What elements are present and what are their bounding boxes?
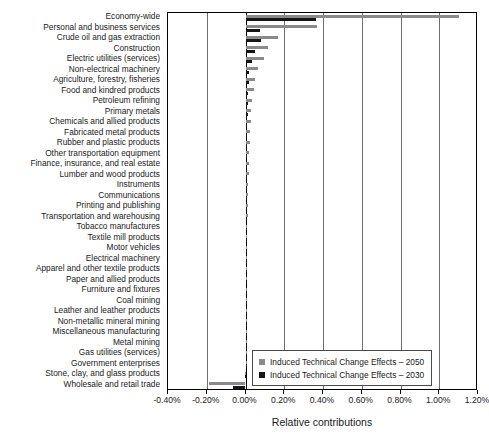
bar-2050 [246,319,247,322]
bar-2030 [246,239,247,242]
y-axis-label: Food and kindred products [61,86,160,95]
bar-2050 [246,330,247,333]
bar-2030 [246,186,247,189]
bar-2050 [246,15,459,18]
bar-group [168,55,476,66]
y-axis-label: Motor vehicles [107,243,161,252]
bar-2050 [246,36,278,39]
bar-2030 [246,312,247,315]
x-tick-mark [245,390,246,394]
bar-group [168,328,476,339]
y-axis-label: Furniture and fixtures [82,285,160,294]
y-axis-label: Metal mining [113,338,160,347]
x-tick-mark [322,390,323,394]
legend-entry-2050: Induced Technical Change Effects – 2050 [259,355,424,368]
bar-group [168,192,476,203]
bar-group [168,150,476,161]
y-axis-label: Gas utilities (services) [79,348,160,357]
y-axis-label: Leather and leather products [54,306,160,315]
bar-2030 [246,71,250,74]
bar-group [168,286,476,297]
y-axis-label: Coal mining [116,296,160,305]
y-axis-label: Lumber and wood products [59,170,160,179]
x-axis-ticks: -0.40%-0.20%0.00%0.20%0.40%0.60%0.80%1.0… [167,390,477,406]
bar-2050 [246,172,249,175]
bar-2030 [246,155,248,158]
bar-group [168,139,476,150]
bar-group [168,265,476,276]
legend-entry-2030: Induced Technical Change Effects – 2030 [259,368,424,381]
bar-group [168,160,476,171]
y-axis-label: Crude oil and gas extraction [57,33,160,42]
legend-label-2030: Induced Technical Change Effects – 2030 [270,370,424,380]
bar-2030 [246,92,249,95]
plot-area [167,12,477,390]
y-axis-label: Wholesale and retail trade [64,380,160,389]
y-axis-label: Fabricated metal products [64,128,160,137]
bar-2050 [246,46,269,49]
bar-2050 [246,246,248,249]
y-axis-label: Printing and publishing [76,201,160,210]
bar-group [168,234,476,245]
bar-2050 [246,267,247,270]
bar-2030 [246,29,260,32]
y-axis-label: Apparel and other textile products [36,264,160,273]
bar-2030 [246,249,247,252]
bar-2030 [246,323,247,326]
y-axis-label: Other transportation equipment [45,149,160,158]
bar-2050 [246,204,248,207]
bar-group [168,13,476,24]
bar-group [168,297,476,308]
bar-2050 [246,109,252,112]
bar-group [168,76,476,87]
bar-2030 [246,260,247,263]
y-axis-label: Chemicals and allied products [49,117,160,126]
bar-group [168,171,476,182]
y-axis-label: Tobacco manufactures [77,222,160,231]
bar-2030 [246,60,252,63]
bar-2030 [246,291,247,294]
bar-2030 [246,144,248,147]
bar-group [168,255,476,266]
bar-2050 [246,214,248,217]
bar-group [168,244,476,255]
bar-2030 [246,365,247,368]
bar-group [168,34,476,45]
bar-2050 [246,99,253,102]
bar-2050 [246,25,317,28]
x-tick-mark [361,390,362,394]
bar-2030 [246,333,247,336]
x-tick-mark [400,390,401,394]
y-axis-label: Stone, clay, and glass products [45,369,160,378]
bar-2030 [246,207,247,210]
bar-group [168,97,476,108]
x-tick-mark [283,390,284,394]
x-tick-label: 0.00% [232,395,256,405]
bar-2030 [246,218,247,221]
legend-swatch-2050-icon [259,359,265,365]
y-axis-label: Finance, insurance, and real estate [30,159,160,168]
y-axis-label: Instruments [117,180,160,189]
bar-2030 [246,165,248,168]
bar-2030 [246,197,247,200]
bar-2050 [246,78,256,81]
bar-2030 [246,134,248,137]
y-axis-label: Rubber and plastic products [57,138,160,147]
bar-2030 [246,176,247,179]
bar-2030 [246,102,248,105]
bar-group [168,202,476,213]
legend-swatch-2030-icon [259,372,265,378]
y-axis-label: Electric utilities (services) [67,54,160,63]
bar-group [168,213,476,224]
chart-legend: Induced Technical Change Effects – 2050 … [252,350,432,386]
x-tick-mark [477,390,478,394]
y-axis-labels: Economy-widePersonal and business servic… [0,12,164,390]
x-tick-mark [167,390,168,394]
y-axis-label: Electrical machinery [86,254,160,263]
bar-2050 [246,88,254,91]
bar-2050 [246,361,247,364]
x-tick-label: 0.60% [349,395,373,405]
bar-2030 [246,344,247,347]
bar-group [168,24,476,35]
bar-2050 [246,162,249,165]
